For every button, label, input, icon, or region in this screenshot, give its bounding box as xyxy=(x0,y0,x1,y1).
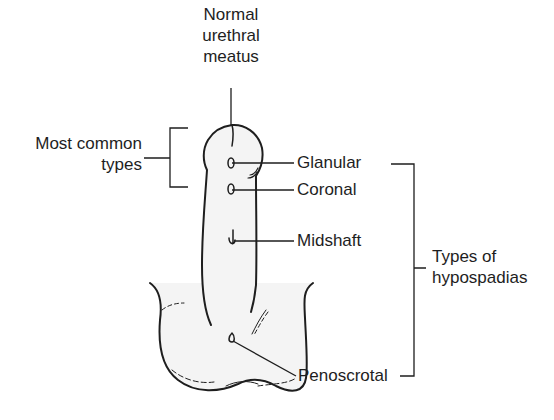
hypospadias-diagram: Normal urethral meatus Most common types… xyxy=(0,0,554,420)
label-line: hypospadias xyxy=(432,267,527,288)
label-line: Types of xyxy=(432,246,527,267)
label-line: types xyxy=(8,154,142,175)
label-line: meatus xyxy=(194,46,268,67)
label-line: urethral xyxy=(194,25,268,46)
penis-outline xyxy=(202,125,263,325)
types-bracket xyxy=(391,164,426,376)
label-most-common-types: Most common types xyxy=(8,133,142,175)
label-penoscrotal: Penoscrotal xyxy=(298,365,388,386)
label-line: Normal xyxy=(194,4,268,25)
label-types-of-hypospadias: Types of hypospadias xyxy=(432,246,527,288)
label-line: Most common xyxy=(8,133,142,154)
label-coronal: Coronal xyxy=(297,179,357,200)
label-glanular: Glanular xyxy=(297,152,361,173)
label-midshaft: Midshaft xyxy=(297,230,361,251)
label-normal-urethral-meatus: Normal urethral meatus xyxy=(194,4,268,67)
anatomy-illustration xyxy=(0,0,554,420)
most-common-bracket xyxy=(144,128,188,187)
